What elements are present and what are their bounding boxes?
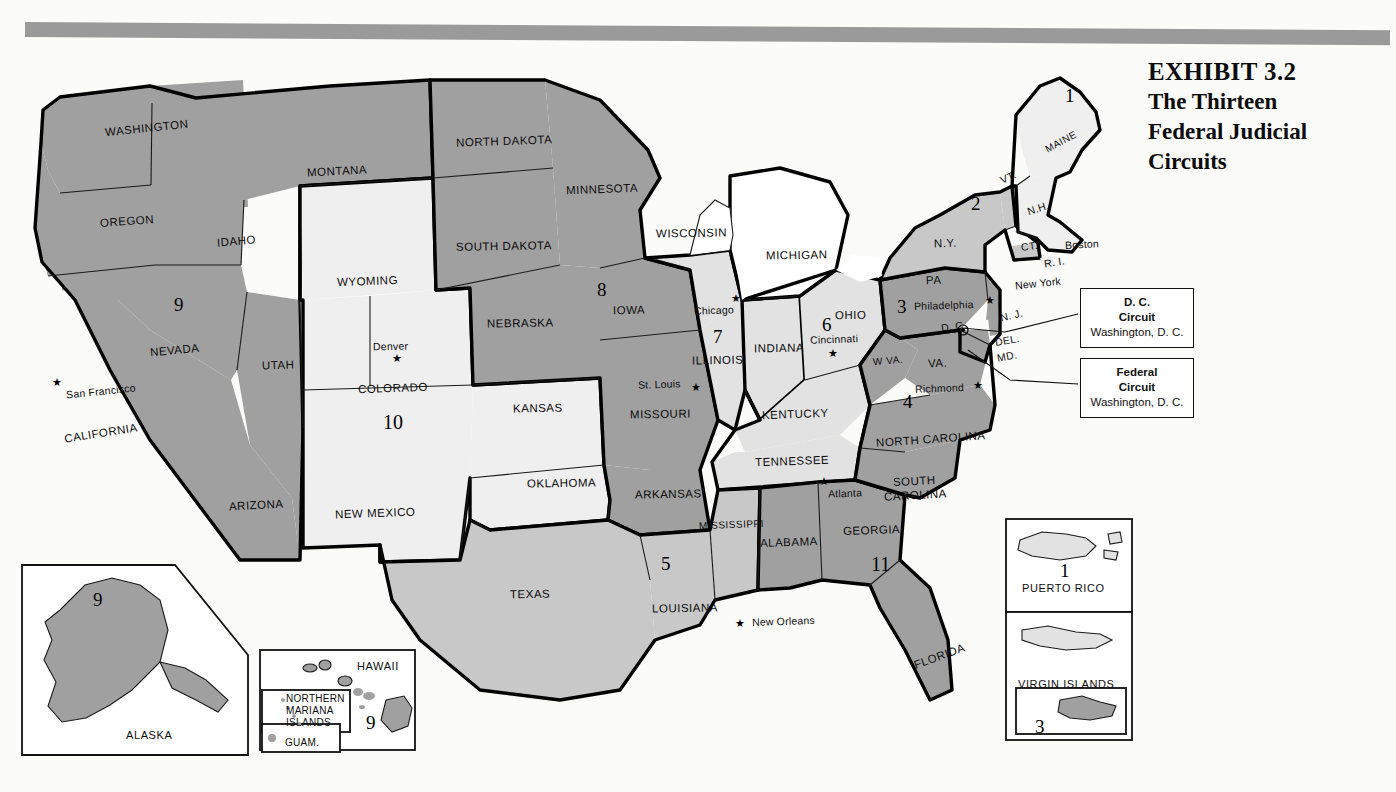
state-label-michigan: MICHIGAN: [766, 249, 828, 262]
state-label-pa: PA: [926, 275, 942, 287]
city-star-new-orleans: ★: [735, 618, 745, 629]
nmi-inset-label-3: ISLANDS: [286, 718, 331, 728]
alaska-inset: [22, 565, 248, 755]
city-label-boston: Boston: [1065, 238, 1099, 250]
federal-callout-line-2: Circuit: [1085, 380, 1189, 395]
puerto-rico-inset-label: PUERTO RICO: [1022, 583, 1105, 594]
city-star-philadelphia: ★: [985, 295, 995, 306]
circuit-number-c5-la: 5: [661, 554, 671, 573]
circuit-number-c9-hawaii: 9: [366, 713, 376, 732]
state-label-kentucky: KENTUCKY: [762, 408, 829, 422]
alaska-inset-label: ALASKA: [126, 730, 172, 741]
federal-callout-line-3: Washington, D. C.: [1085, 395, 1189, 410]
state-label-missouri: MISSOURI: [630, 408, 691, 421]
city-label-richmond: Richmond: [915, 382, 964, 394]
city-label-new-orleans: New Orleans: [752, 615, 815, 628]
state-label-south: SOUTH: [893, 475, 936, 489]
state-label-colorado: COLORADO: [358, 382, 428, 396]
city-star-denver: ★: [392, 353, 402, 364]
pr-vi-inset: [1006, 519, 1132, 740]
hawaii-inset-label: HAWAII: [357, 661, 399, 672]
state-label-va: VA.: [928, 358, 948, 370]
circuit-number-c8-ia: 8: [597, 280, 607, 299]
circuit-number-c3-vi: 3: [1035, 717, 1045, 736]
circuit-number-c1-maine: 1: [1065, 86, 1075, 105]
city-label-chicago: Chicago: [694, 304, 734, 316]
city-label-denver: Denver: [373, 341, 408, 352]
virgin-islands-inset-label: VIRGIN ISLANDS: [1018, 679, 1114, 690]
circuit-number-c11-ga: 11: [871, 554, 890, 574]
city-label-philadelphia: Philadelphia: [914, 299, 974, 312]
city-star-cincinnati: ★: [828, 348, 838, 359]
city-label-st-louis: St. Louis: [638, 378, 681, 390]
city-label-atlanta: Atlanta: [828, 487, 862, 499]
circuit-number-c4-va: 4: [903, 392, 913, 411]
state-label-texas: TEXAS: [510, 589, 550, 601]
city-star-san-francisco: ★: [52, 377, 62, 388]
state-label-ct: CT.: [1020, 240, 1038, 253]
state-label-south-dakota: SOUTH DAKOTA: [456, 240, 552, 253]
state-label-alabama: ALABAMA: [760, 536, 818, 550]
state-label-wisconsin: WISCONSIN: [656, 227, 727, 240]
city-star-richmond: ★: [973, 380, 983, 391]
state-label-wyoming: WYOMING: [337, 275, 398, 289]
circuit-number-c2-ny: 2: [971, 194, 981, 213]
state-label-oklahoma: OKLAHOMA: [527, 477, 596, 490]
circuit-number-c1-pr: 1: [1060, 561, 1070, 580]
state-label-iowa: IOWA: [613, 305, 645, 317]
dc-callout-line-3: Washington, D. C.: [1085, 325, 1189, 340]
nmi-inset-label-2: MARIANA: [286, 706, 334, 716]
state-label-louisiana: LOUISIANA: [652, 602, 718, 615]
state-label-nebraska: NEBRASKA: [487, 317, 554, 330]
city-star-atlanta: ★: [819, 476, 829, 487]
nmi-inset-label-1: NORTHERN: [286, 694, 345, 704]
city-label-cincinnati: Cincinnati: [810, 333, 858, 345]
state-label-utah: UTAH: [262, 359, 295, 372]
circuit-number-c9-nv: 9: [174, 295, 184, 314]
state-label-ohio: OHIO: [835, 310, 867, 322]
federal-callout-line-1: Federal: [1085, 365, 1189, 380]
state-label-kansas: KANSAS: [513, 403, 563, 415]
state-label-arkansas: ARKANSAS: [635, 488, 702, 501]
dc-callout-line-1: D. C.: [1085, 295, 1189, 310]
state-label-georgia: GEORGIA: [843, 524, 901, 537]
circuit-number-c9-alaska: 9: [93, 590, 103, 609]
state-label-n-y: N.Y.: [934, 238, 957, 250]
city-star-chicago: ★: [731, 293, 741, 304]
state-label-illinois: ILLINOIS: [692, 355, 744, 367]
circuit-number-c3-pa: 3: [897, 297, 907, 316]
circuit-number-c10-co: 10: [383, 412, 403, 432]
circuit-number-c7-il: 7: [713, 327, 723, 346]
federal-circuit-callout[interactable]: Federal Circuit Washington, D. C.: [1080, 358, 1194, 418]
city-star-st-louis: ★: [691, 382, 701, 393]
circuit-number-c6-oh: 6: [822, 315, 832, 334]
dc-callout-line-2: Circuit: [1085, 310, 1189, 325]
guam-inset-label: GUAM.: [285, 738, 319, 748]
dc-circuit-callout[interactable]: D. C. Circuit Washington, D. C.: [1080, 288, 1194, 348]
state-label-indiana: INDIANA: [754, 343, 804, 355]
